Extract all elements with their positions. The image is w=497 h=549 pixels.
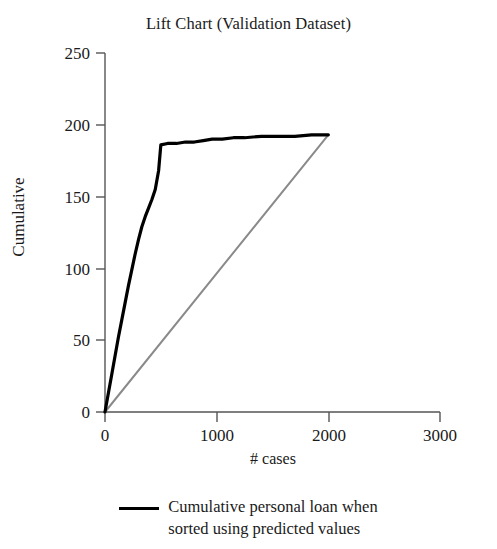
plot-area	[0, 0, 497, 470]
y-axis-ticks	[96, 53, 105, 412]
y-tick-label-200: 200	[34, 117, 90, 134]
y-axis-title: Cumulative	[9, 157, 29, 277]
x-tick-label-3000: 3000	[400, 427, 480, 444]
legend-entry-lift-curve: Cumulative personal loan when sorted usi…	[119, 496, 377, 540]
y-tick-label-0: 0	[34, 404, 90, 421]
legend-label: Cumulative personal loan when sorted usi…	[168, 496, 377, 540]
y-tick-label-100: 100	[34, 261, 90, 278]
chart-legend: Cumulative personal loan when sorted usi…	[0, 496, 497, 540]
y-tick-label-150: 150	[34, 189, 90, 206]
y-tick-label-50: 50	[34, 332, 90, 349]
legend-label-line2: sorted using predicted values	[168, 518, 377, 540]
y-tick-label-250: 250	[34, 45, 90, 62]
x-axis-title: # cases	[105, 450, 441, 468]
line-swatch-icon	[119, 507, 159, 510]
x-tick-label-2000: 2000	[289, 427, 369, 444]
lift-chart-figure: Lift Chart (Validation Dataset) 0 50	[0, 0, 497, 549]
x-axis-ticks	[105, 412, 440, 422]
x-tick-label-0: 0	[65, 427, 145, 444]
x-tick-label-1000: 1000	[177, 427, 257, 444]
legend-label-line1: Cumulative personal loan when	[168, 496, 377, 518]
baseline-reference-line	[105, 135, 328, 412]
